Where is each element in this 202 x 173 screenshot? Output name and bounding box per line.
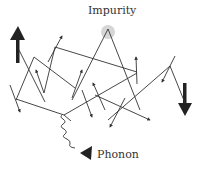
electron-trajectory — [10, 29, 185, 127]
phonon-arrowhead-icon — [80, 146, 92, 160]
impurity-halo-icon — [101, 25, 115, 39]
phonon-wave-icon — [61, 114, 75, 148]
phonon-label: Phonon — [97, 148, 139, 161]
impurity-label: Impurity — [88, 4, 136, 17]
diagram-canvas: Impurity Phonon — [0, 0, 202, 173]
spin-down-arrow-icon — [178, 83, 192, 116]
